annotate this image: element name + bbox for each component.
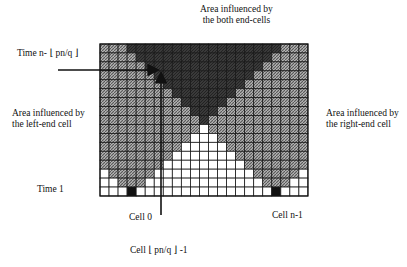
grid-cell: [272, 98, 281, 107]
grid-cell: [136, 89, 145, 98]
grid-cell: [272, 89, 281, 98]
grid-cell: [218, 71, 227, 80]
grid-cell: [245, 160, 254, 169]
grid-cell: [136, 133, 145, 142]
both-end-cells-label: Area influenced by the both end-cells: [200, 4, 273, 26]
grid-cell: [136, 80, 145, 89]
grid-cell: [281, 98, 290, 107]
grid-cell: [263, 53, 272, 62]
grid-cell: [281, 178, 290, 187]
grid-cell: [272, 80, 281, 89]
right-end-label: Area influenced by the right-end cell: [326, 108, 399, 130]
grid-cell: [263, 71, 272, 80]
grid-cell: [245, 133, 254, 142]
grid-cell: [245, 187, 254, 196]
grid-cell: [154, 44, 163, 53]
grid-cell: [163, 44, 172, 53]
grid-cell: [136, 151, 145, 160]
grid-cell: [272, 169, 281, 178]
grid-cell: [263, 142, 272, 151]
grid-cell: [154, 71, 163, 80]
grid-cell: [172, 151, 181, 160]
grid-cell: [218, 62, 227, 71]
grid-cell: [290, 53, 299, 62]
grid-cell: [236, 62, 245, 71]
grid-cell: [100, 187, 109, 196]
grid-cell: [263, 62, 272, 71]
grid-cell: [290, 71, 299, 80]
grid-cell: [109, 124, 118, 133]
grid-cell: [154, 116, 163, 125]
grid-cell: [109, 178, 118, 187]
grid-cell: [172, 187, 181, 196]
grid-cell: [236, 151, 245, 160]
grid-cell: [181, 71, 190, 80]
grid-cell: [236, 160, 245, 169]
grid-cell: [263, 89, 272, 98]
grid-cell: [272, 44, 281, 53]
grid-cell: [254, 124, 263, 133]
grid-cell: [199, 53, 208, 62]
grid-cell: [290, 107, 299, 116]
grid-cell: [100, 169, 109, 178]
grid-cell: [227, 160, 236, 169]
grid-cell: [254, 169, 263, 178]
grid-cell: [236, 133, 245, 142]
grid-cell: [163, 71, 172, 80]
grid-cell: [290, 62, 299, 71]
grid-cell: [227, 44, 236, 53]
grid-cell: [118, 71, 127, 80]
grid-cell: [199, 71, 208, 80]
grid-cell: [236, 169, 245, 178]
grid-cell: [163, 151, 172, 160]
grid-cell: [136, 116, 145, 125]
grid-cell: [145, 71, 154, 80]
grid-cell: [181, 98, 190, 107]
grid-cell: [127, 160, 136, 169]
time-bottom-label: Time 1: [37, 184, 64, 195]
grid-cell: [281, 169, 290, 178]
grid-cell: [199, 142, 208, 151]
grid-cell: [299, 151, 308, 160]
influence-grid-diagram: [0, 0, 407, 267]
grid-cell: [118, 89, 127, 98]
grid-cell: [254, 71, 263, 80]
grid-cell: [199, 133, 208, 142]
grid-cell: [236, 98, 245, 107]
grid-cell: [254, 142, 263, 151]
grid-cell: [208, 98, 217, 107]
grid-cell: [272, 107, 281, 116]
grid-cell: [190, 178, 199, 187]
grid-cell: [145, 44, 154, 53]
grid-cell: [254, 187, 263, 196]
grid-cell: [245, 62, 254, 71]
grid-cell: [299, 89, 308, 98]
cell-mid-label: Cell ⌊ pn/q ⌋ -1: [130, 245, 188, 256]
grid-cell: [281, 142, 290, 151]
grid-cell: [254, 62, 263, 71]
grid-cell: [145, 53, 154, 62]
grid-cell: [118, 107, 127, 116]
grid-cell: [181, 169, 190, 178]
grid-cell: [118, 187, 127, 196]
grid-cell: [254, 160, 263, 169]
grid-cell: [245, 124, 254, 133]
grid-cell: [100, 98, 109, 107]
grid-cell: [145, 160, 154, 169]
grid-cell: [227, 133, 236, 142]
time-top-label: Time n- ⌊ pn/q ⌋: [17, 48, 78, 59]
grid-cell: [109, 80, 118, 89]
grid-cell: [100, 53, 109, 62]
grid-cell: [281, 53, 290, 62]
grid-cell: [227, 80, 236, 89]
grid-cell: [172, 89, 181, 98]
grid-cell: [199, 44, 208, 53]
grid-cell: [145, 89, 154, 98]
grid-cell: [163, 80, 172, 89]
grid-cell: [299, 133, 308, 142]
grid-cell: [218, 187, 227, 196]
grid-cell: [172, 53, 181, 62]
grid-cell: [218, 98, 227, 107]
grid-cell: [109, 98, 118, 107]
grid-cell: [254, 89, 263, 98]
